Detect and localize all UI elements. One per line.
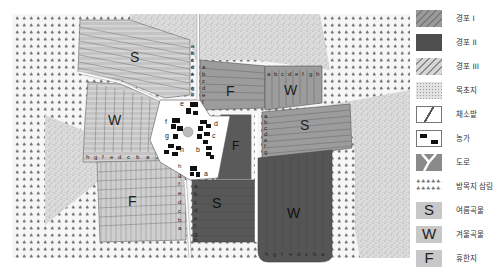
svg-text:d: d: [118, 154, 121, 160]
svg-text:d: d: [194, 207, 197, 213]
svg-text:d: d: [214, 120, 218, 127]
speckle-icon: [416, 82, 442, 99]
legend-item-pasture: 목초지: [412, 82, 502, 102]
svg-text:h: h: [180, 146, 184, 153]
field-south-west-F: [97, 160, 186, 242]
crop-letter-F: F: [128, 193, 137, 209]
tree-pattern-icon: ♠♣♠♣♠♣♣♠♣♠♣♠: [416, 178, 442, 195]
svg-text:d: d: [288, 71, 291, 77]
diagonal-hatch-dark-icon: [416, 34, 442, 51]
crop-letter-F: F: [232, 139, 239, 153]
crop-letter-W: W: [287, 205, 301, 221]
legend-item-forest: ♠♣♠♣♠♣♣♠♣♠♣♠ 방목지 삼림: [412, 178, 502, 198]
legend-item-field2: 경포 II: [412, 34, 502, 54]
svg-text:c: c: [281, 71, 284, 77]
legend-item-winter: W 겨울곡물: [412, 226, 502, 246]
winter-crop-icon: W: [416, 226, 442, 243]
legend-item-farmhouse: 농가: [412, 130, 502, 150]
svg-text:c: c: [194, 199, 197, 205]
legend-item-vegetable: 채소밭: [412, 106, 502, 126]
diagonal-hatch-pale-icon: [416, 58, 442, 75]
crop-letter-S: S: [130, 49, 139, 65]
svg-text:c: c: [202, 78, 205, 84]
svg-text:c: c: [178, 208, 181, 214]
svg-text:c: c: [305, 251, 308, 257]
svg-text:d: d: [178, 199, 181, 205]
svg-text:h: h: [191, 91, 194, 97]
road-fork-icon: [416, 154, 442, 171]
svg-text:d: d: [191, 64, 194, 70]
svg-text:b: b: [196, 146, 200, 153]
legend-item-summer: S 여름곡물: [412, 202, 502, 222]
village-pond: [183, 127, 193, 137]
legend-item-road: 도로: [412, 154, 502, 174]
svg-text:e: e: [180, 100, 184, 107]
svg-text:c: c: [212, 132, 216, 139]
svg-text:g: g: [165, 132, 169, 140]
svg-text:a: a: [204, 170, 208, 177]
svg-text:h: h: [316, 71, 319, 77]
crop-letter-W: W: [108, 112, 122, 128]
svg-text:g: g: [264, 149, 267, 155]
svg-text:c: c: [191, 57, 194, 63]
farmhouse-icon: [416, 130, 442, 147]
svg-text:h: h: [194, 237, 197, 243]
svg-text:h: h: [265, 251, 268, 257]
svg-text:f: f: [165, 118, 167, 125]
svg-text:g: g: [178, 172, 181, 178]
summer-crop-icon: S: [416, 202, 442, 219]
svg-text:c: c: [127, 154, 130, 160]
slash-box-icon: [416, 106, 442, 123]
svg-text:d: d: [297, 251, 300, 257]
svg-text:g: g: [273, 251, 276, 257]
fallow-icon: F: [416, 250, 442, 267]
svg-text:h: h: [178, 163, 181, 169]
svg-text:h: h: [86, 154, 89, 160]
diagonal-hatch-light-icon: [416, 10, 442, 27]
legend-item-field3: 경포 III: [412, 58, 502, 78]
field-south-S: [192, 180, 256, 242]
crop-letter-W: W: [284, 82, 298, 98]
crop-letter-S: S: [212, 195, 221, 211]
svg-text:g: g: [309, 71, 312, 77]
open-field-map: ♠ S W: [0, 0, 410, 272]
legend-item-field1: 경포 I: [412, 10, 502, 30]
legend-item-fallow: F 휴한지: [412, 250, 502, 270]
crop-letter-F: F: [226, 83, 235, 99]
crop-letter-S: S: [300, 117, 309, 133]
svg-text:d: d: [202, 85, 205, 91]
svg-text:g: g: [94, 154, 97, 160]
